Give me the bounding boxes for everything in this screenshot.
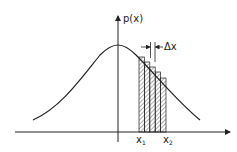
density-curve <box>33 45 200 120</box>
y-axis-label: p(x) <box>123 13 143 24</box>
x2-label: x2 <box>163 134 173 146</box>
bar-2 <box>144 62 149 132</box>
bar-1 <box>139 57 144 132</box>
histogram-bars <box>139 57 166 132</box>
bar-3 <box>150 67 155 132</box>
x1-label: x1 <box>136 134 146 146</box>
pdf-diagram: p(x) Δx x1 x2 <box>0 0 237 152</box>
delta-x-label: Δx <box>164 41 177 52</box>
